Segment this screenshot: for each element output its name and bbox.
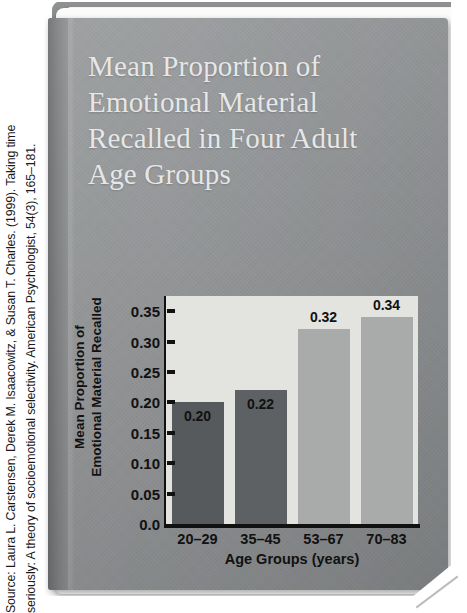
bar-70-83[interactable]: 0.34 <box>361 317 413 524</box>
x-axis-tick-label: 20–29 <box>177 531 217 547</box>
book-front-cover: Mean Proportion of Emotional Material Re… <box>48 18 448 590</box>
bar-value-label: 0.22 <box>247 396 274 412</box>
bar-value-label: 0.34 <box>373 297 400 313</box>
y-axis-tick-mark <box>167 400 175 404</box>
y-axis-tick-label: 0.25 <box>131 364 160 381</box>
bars-container: 0.200.220.320.34 <box>166 296 418 524</box>
bar-value-label: 0.20 <box>184 408 211 424</box>
y-axis-tick-mark <box>167 340 175 344</box>
plot-area: 0.200.220.320.34 <box>166 296 418 524</box>
cover-title: Mean Proportion of Emotional Material Re… <box>88 48 418 192</box>
y-axis-tick-label: 0.10 <box>131 455 160 472</box>
x-axis-line <box>164 524 420 528</box>
source-citation-line-1: Source: Laura L. Carstensen, Derek M. Is… <box>1 0 21 613</box>
bar-chart: Mean Proportion of Emotional Material Re… <box>70 243 448 573</box>
source-citation-line-2: seriously: A theory of socioemotional se… <box>21 0 41 613</box>
y-axis-tick-mark <box>167 431 175 435</box>
y-axis-tick-labels: 0.00.050.100.150.200.250.300.35 <box>108 259 160 524</box>
x-axis-tick-labels: 20–2935–4553–6770–83 <box>166 531 418 551</box>
y-axis-tick-label: 0.20 <box>131 394 160 411</box>
bar-20-29[interactable]: 0.20 <box>172 402 224 524</box>
background-top <box>0 0 467 2</box>
y-axis-tick-mark <box>167 492 175 496</box>
y-axis-title-line-2: Emotional Material Recalled <box>88 297 105 476</box>
cover-title-line-4: Age Groups <box>88 156 418 192</box>
bar-53-67[interactable]: 0.32 <box>298 329 350 524</box>
y-axis-title: Mean Proportion of Emotional Material Re… <box>68 265 108 509</box>
y-axis-tick-label: 0.05 <box>131 485 160 502</box>
background-right <box>451 0 467 613</box>
y-axis-tick-mark <box>167 461 175 465</box>
cover-title-line-1: Mean Proportion of <box>88 48 418 84</box>
book-illustration: Mean Proportion of Emotional Material Re… <box>44 0 467 613</box>
bar-value-label: 0.32 <box>310 309 337 325</box>
y-axis-title-line-1: Mean Proportion of <box>71 325 88 449</box>
cover-title-line-2: Emotional Material <box>88 84 418 120</box>
y-axis-tick-label: 0.35 <box>131 303 160 320</box>
source-citation: Source: Laura L. Carstensen, Derek M. Is… <box>0 0 44 613</box>
y-axis-tick-label: 0.15 <box>131 424 160 441</box>
y-axis-tick-mark <box>167 370 175 374</box>
x-axis-tick-label: 35–45 <box>240 531 280 547</box>
cover-title-line-3: Recalled in Four Adult <box>88 120 418 156</box>
x-axis-tick-label: 53–67 <box>303 531 343 547</box>
y-axis-tick-label: 0.30 <box>131 333 160 350</box>
y-axis-tick-label: 0.0 <box>139 516 160 533</box>
bar-35-45[interactable]: 0.22 <box>235 390 287 524</box>
x-axis-tick-label: 70–83 <box>366 531 406 547</box>
x-axis-title: Age Groups (years) <box>166 551 418 567</box>
y-axis-tick-mark <box>167 309 175 313</box>
